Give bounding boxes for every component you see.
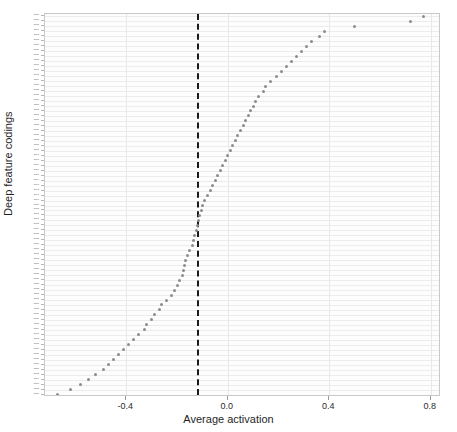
gridline-horizontal	[45, 91, 439, 92]
y-axis-tick	[41, 379, 44, 380]
gridline-horizontal	[45, 310, 439, 311]
data-point	[102, 368, 105, 371]
x-axis-tick	[125, 396, 126, 400]
gridline-horizontal	[45, 86, 439, 87]
data-point	[209, 189, 212, 192]
gridline-horizontal	[45, 225, 439, 226]
gridline-horizontal	[45, 245, 439, 246]
y-axis-tick-label: DFC71	[0, 44, 39, 46]
data-point	[182, 269, 185, 272]
data-point	[184, 259, 187, 262]
gridline-horizontal	[45, 146, 439, 147]
gridline-horizontal	[45, 201, 439, 202]
y-axis-tick	[41, 319, 44, 320]
y-axis-tick-label: DFC31	[0, 243, 39, 245]
data-point	[193, 234, 196, 237]
data-point	[56, 393, 59, 396]
y-axis-tick-label: DFC56	[0, 119, 39, 121]
gridline-horizontal	[45, 215, 439, 216]
gridline-horizontal	[45, 235, 439, 236]
y-axis-tick-label: DFC19	[0, 303, 39, 305]
y-axis-tick-label: DFC74	[0, 29, 39, 31]
data-point	[216, 174, 219, 177]
gridline-horizontal	[45, 46, 439, 47]
gridline-horizontal	[45, 340, 439, 341]
y-axis-tick	[41, 214, 44, 215]
data-point	[221, 164, 224, 167]
gridline-horizontal	[45, 240, 439, 241]
y-axis-tick	[41, 60, 44, 61]
data-point	[214, 179, 217, 182]
gridline-horizontal	[45, 101, 439, 102]
data-point	[192, 239, 195, 242]
gridline-horizontal	[45, 290, 439, 291]
data-point	[196, 224, 199, 227]
y-axis-tick	[41, 289, 44, 290]
x-axis-tick-label: 0.4	[322, 401, 335, 411]
y-axis-tick	[41, 40, 44, 41]
gridline-horizontal	[45, 66, 439, 67]
y-axis-tick	[41, 55, 44, 56]
gridline-horizontal	[45, 111, 439, 112]
gridline-horizontal	[45, 270, 439, 271]
data-point	[300, 50, 303, 53]
data-point	[262, 90, 265, 93]
gridline-horizontal	[45, 136, 439, 137]
y-axis-tick-label: DFC02	[0, 388, 39, 390]
gridline-horizontal	[45, 181, 439, 182]
y-axis-tick-label: DFC62	[0, 89, 39, 91]
y-axis-tick	[41, 394, 44, 395]
data-point	[195, 229, 198, 232]
y-axis-tick	[41, 110, 44, 111]
y-axis-tick-label: DFC47	[0, 164, 39, 166]
gridline-horizontal	[45, 51, 439, 52]
x-axis-tick-label: -0.4	[117, 401, 133, 411]
gridline-horizontal	[45, 365, 439, 366]
gridline-horizontal	[45, 275, 439, 276]
y-axis-tick	[41, 279, 44, 280]
y-axis-tick	[41, 120, 44, 121]
y-axis-tick-label: DFC57	[0, 114, 39, 116]
gridline-horizontal	[45, 206, 439, 207]
gridline-horizontal	[45, 220, 439, 221]
gridline-horizontal	[45, 56, 439, 57]
x-axis-tick-label: 0.8	[424, 401, 437, 411]
data-point	[107, 363, 110, 366]
gridline-horizontal	[45, 76, 439, 77]
y-axis-tick-label: DFC24	[0, 278, 39, 280]
y-axis-tick-label: DFC60	[0, 99, 39, 101]
gridline-horizontal	[45, 96, 439, 97]
data-point	[422, 15, 425, 18]
y-axis-tick-label: DFC40	[0, 199, 39, 201]
data-point	[275, 75, 278, 78]
data-point	[176, 284, 179, 287]
gridline-horizontal	[45, 31, 439, 32]
y-axis-tick	[41, 209, 44, 210]
y-axis-tick-label: DFC17	[0, 313, 39, 315]
y-axis-tick-label: DFC39	[0, 204, 39, 206]
y-axis-tick-label: DFC58	[0, 109, 39, 111]
y-axis-tick-label: DFC11	[0, 343, 39, 345]
y-axis-tick	[41, 140, 44, 141]
y-axis-tick-label: DFC09	[0, 353, 39, 355]
y-axis-tick	[41, 254, 44, 255]
y-axis-tick-label: DFC20	[0, 298, 39, 300]
y-axis-tick-label: DFC48	[0, 159, 39, 161]
y-axis-tick-label: DFC68	[0, 59, 39, 61]
y-axis-tick-label: DFC61	[0, 94, 39, 96]
data-point	[158, 308, 161, 311]
data-point	[145, 323, 148, 326]
y-axis-tick	[41, 274, 44, 275]
data-point	[69, 388, 72, 391]
gridline-horizontal	[45, 325, 439, 326]
y-axis-tick	[41, 339, 44, 340]
gridline-vertical	[228, 14, 229, 395]
gridline-horizontal	[45, 230, 439, 231]
gridline-horizontal	[45, 330, 439, 331]
y-axis-tick	[41, 364, 44, 365]
y-axis-tick	[41, 100, 44, 101]
y-axis-tick	[41, 20, 44, 21]
data-point	[178, 279, 181, 282]
y-axis-tick-label: DFC59	[0, 104, 39, 106]
data-point	[353, 25, 356, 28]
